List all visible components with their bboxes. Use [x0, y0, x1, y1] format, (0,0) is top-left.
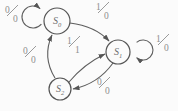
label-output: 1	[75, 45, 80, 55]
transition-label-s0-selfloop: 0 0	[5, 5, 18, 24]
state-s1-subscript: 1	[119, 52, 122, 59]
edge-s0-selfloop	[22, 6, 41, 28]
label-output: 0	[31, 55, 36, 65]
transition-label-s2-to-s0: 0 0	[23, 46, 36, 65]
label-output: 0	[104, 11, 109, 21]
edge-s1-selfloop	[137, 40, 153, 60]
label-output: 0	[105, 86, 110, 96]
state-diagram: S0 S1 S2 0 0 1 0 1 0 1 1 0 0	[0, 0, 178, 111]
transition-label-s1-selfloop: 1 0	[156, 34, 169, 53]
label-output: 0	[13, 14, 18, 24]
edge-s2-to-s0	[48, 35, 55, 78]
transition-label-s2-to-s1: 1 1	[67, 36, 80, 55]
transition-label-s0-to-s1: 1 0	[96, 2, 109, 21]
state-diagram-canvas: S0 S1 S2 0 0 1 0 1 0 1 1 0 0	[0, 0, 178, 111]
edge-s0-to-s1	[70, 23, 109, 41]
label-output: 0	[164, 43, 169, 53]
transition-label-s1-to-s2: 0 0	[97, 77, 110, 96]
